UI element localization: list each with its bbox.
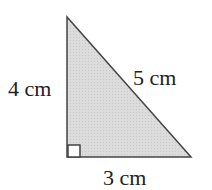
- right-angle-marker: [68, 145, 80, 157]
- hypotenuse-label: 5 cm: [133, 65, 176, 90]
- triangle-diagram: 4 cm 5 cm 3 cm: [0, 0, 212, 190]
- bottom-side-label: 3 cm: [103, 165, 146, 190]
- left-side-label: 4 cm: [8, 76, 51, 101]
